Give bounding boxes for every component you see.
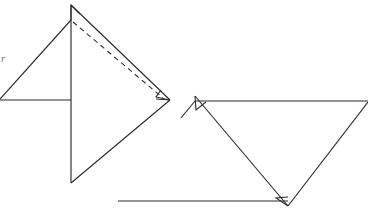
right-left-to-bottom-vertex-edge (195, 96, 288, 206)
left-edge-label: r (1, 52, 6, 64)
left-triangle-group: r (0, 5, 170, 183)
left-apex-to-left-mid-edge (0, 20, 71, 99)
figure-canvas: r (0, 0, 368, 223)
left-bottom-to-right-vertex-edge (71, 100, 170, 183)
left-hidden-diagonal-edge (73, 22, 163, 98)
geometry-figure: r (0, 0, 368, 223)
left-apex-arrowhead-icon (71, 5, 80, 20)
left-apex-to-right-vertex-edge (71, 5, 170, 100)
right-far-right-to-bottom-vertex-edge (288, 102, 368, 206)
right-left-vertex-tail-edge (181, 101, 195, 118)
